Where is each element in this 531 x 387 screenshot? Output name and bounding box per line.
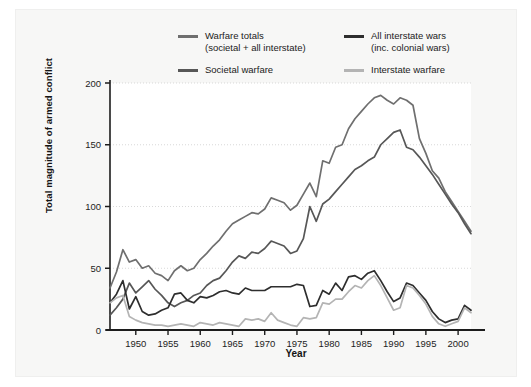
plot-area: 0501001502001950195519601965197019751980… bbox=[16, 10, 516, 376]
x-axis-title: Year bbox=[106, 348, 486, 359]
chart-canvas: 0501001502001950195519601965197019751980… bbox=[16, 10, 516, 376]
y-axis-title: Total magnitude of armed conflict bbox=[43, 41, 54, 231]
y-tick-label: 50 bbox=[90, 263, 101, 274]
chart-screenshot: Warfare totals (societal + all interstat… bbox=[0, 0, 531, 387]
y-tick-label: 150 bbox=[85, 139, 101, 150]
y-tick-label: 100 bbox=[85, 201, 101, 212]
figure-panel: Warfare totals (societal + all interstat… bbox=[16, 10, 516, 376]
y-tick-label: 200 bbox=[85, 78, 101, 89]
y-tick-label: 0 bbox=[96, 325, 101, 336]
